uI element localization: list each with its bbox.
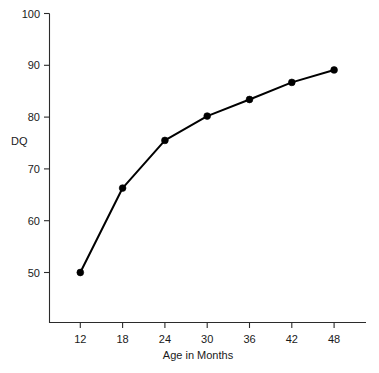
x-tick-label: 36 [243, 333, 255, 345]
x-tick-label: 18 [116, 333, 128, 345]
y-axis-ticks [44, 14, 50, 273]
y-tick-label: 80 [28, 111, 40, 123]
data-point [162, 137, 169, 144]
data-point [77, 269, 84, 276]
y-axis-title: DQ [11, 135, 28, 147]
data-point [331, 67, 338, 74]
series-line [80, 70, 334, 273]
x-axis-title: Age in Months [163, 349, 234, 361]
data-series-dq [77, 67, 338, 276]
y-tick-label: 70 [28, 163, 40, 175]
axis-lines [50, 14, 367, 323]
x-tick-label: 30 [201, 333, 213, 345]
data-point [246, 96, 253, 103]
data-point [288, 79, 295, 86]
x-tick-label: 12 [74, 333, 86, 345]
y-tick-label: 90 [28, 59, 40, 71]
y-tick-label: 100 [22, 8, 40, 20]
chart-container: 100 90 80 70 60 50 12 18 24 30 36 42 48 [0, 0, 379, 373]
line-chart: 100 90 80 70 60 50 12 18 24 30 36 42 48 [0, 0, 379, 373]
x-tick-label: 48 [328, 333, 340, 345]
x-axis-ticks [80, 323, 334, 329]
data-point [204, 113, 211, 120]
x-tick-label: 24 [159, 333, 171, 345]
x-axis-tick-labels: 12 18 24 30 36 42 48 [74, 333, 340, 345]
series-markers [77, 67, 338, 276]
y-tick-label: 60 [28, 215, 40, 227]
x-tick-label: 42 [286, 333, 298, 345]
y-tick-label: 50 [28, 267, 40, 279]
data-point [119, 185, 126, 192]
